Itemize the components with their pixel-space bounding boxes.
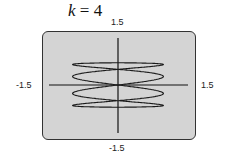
plot-area	[0, 0, 226, 162]
